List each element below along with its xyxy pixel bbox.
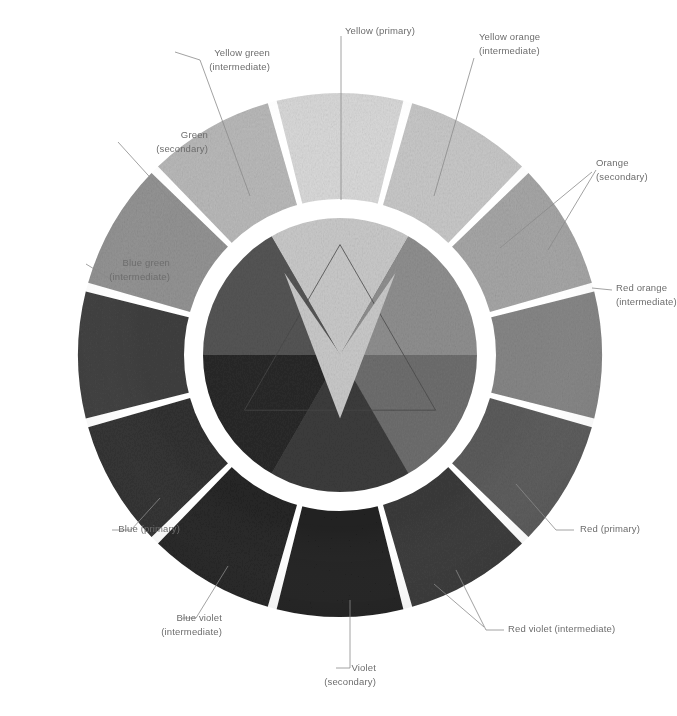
callout-label-yellow-orange: Yellow orange(intermediate) (479, 30, 540, 58)
callout-label-line1: Blue violet (62, 611, 222, 625)
callout-label-line1: Yellow (primary) (310, 24, 450, 38)
callout-label-line2: (secondary) (596, 170, 648, 184)
callout-label-line1: Red violet (intermediate) (508, 622, 615, 636)
leader-line-red-violet-second (434, 584, 484, 627)
callout-label-line1: Green (48, 128, 208, 142)
callout-label-red-orange: Red orange(intermediate) (616, 281, 677, 309)
callout-label-yellow-primary: Yellow (primary) (310, 24, 450, 38)
callout-label-violet-secondary: Violet(secondary) (216, 661, 376, 689)
callout-label-blue-primary: Blue (primary) (20, 522, 180, 536)
callout-label-line1: Yellow orange (479, 30, 540, 44)
callout-label-line1: Orange (596, 156, 648, 170)
vignette (78, 93, 602, 617)
callout-label-line2: (secondary) (216, 675, 376, 689)
callout-label-yellow-green: Yellow green(intermediate) (110, 46, 270, 74)
callout-label-green-secondary: Green(secondary) (48, 128, 208, 156)
callout-label-line1: Red orange (616, 281, 677, 295)
callout-label-line1: Blue green (10, 256, 170, 270)
callout-label-orange-secondary: Orange(secondary) (596, 156, 648, 184)
callout-label-line2: (intermediate) (616, 295, 677, 309)
callout-label-blue-violet: Blue violet(intermediate) (62, 611, 222, 639)
callout-label-line2: (intermediate) (10, 270, 170, 284)
callout-label-line1: Red (primary) (580, 522, 640, 536)
callout-label-line2: (intermediate) (62, 625, 222, 639)
callout-label-blue-green: Blue green(intermediate) (10, 256, 170, 284)
leader-line-red-orange (592, 288, 612, 290)
callout-label-line1: Blue (primary) (20, 522, 180, 536)
callout-label-line1: Yellow green (110, 46, 270, 60)
callout-label-red-violet: Red violet (intermediate) (508, 622, 615, 636)
callout-label-red-primary: Red (primary) (580, 522, 640, 536)
callout-label-line1: Violet (216, 661, 376, 675)
callout-label-line2: (intermediate) (110, 60, 270, 74)
callout-label-line2: (secondary) (48, 142, 208, 156)
callout-label-line2: (intermediate) (479, 44, 540, 58)
